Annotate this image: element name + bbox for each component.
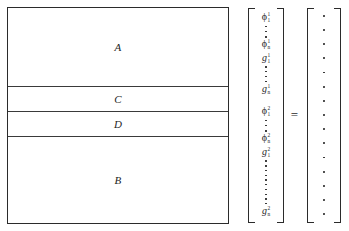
rhs-vector-right-bracket [334,8,341,223]
vector-entry-subscript: n [268,139,271,145]
vector-entry-base: ϕ [262,105,267,116]
rhs-vector-entry-dot [323,72,325,74]
vector-entry-indices: 11 [267,53,270,65]
vector-entry-base: g [262,52,267,63]
rhs-vector-entry-dot [323,86,325,88]
unknown-vector: ϕ11ϕ1ng11g1nϕ21ϕ2ng21g2n [248,8,284,223]
vector-entry-symbol: ϕ1n [262,39,270,51]
matrix-band-c: C [8,86,228,111]
rhs-vector-left-bracket [307,8,314,223]
rhs-vector-entry-dot [323,199,325,201]
unknown-vector-right-bracket [277,8,284,223]
rhs-vector-entry-dot [323,29,325,31]
vector-entry-base: g [262,146,267,157]
rhs-vector-entries [314,8,334,223]
matrix-band-a: A [8,8,228,86]
equation-figure: A C D B ϕ11ϕ1ng11g1nϕ21ϕ2ng21g2n = [0,0,349,231]
vector-entry-subscript: n [267,212,270,218]
rhs-vector-entry-dot [323,128,325,130]
vector-entry-indices: 21 [268,106,271,118]
vector-entry-indices: 1n [267,84,270,96]
rhs-vector [307,8,341,223]
vector-entry-indices: 1n [268,39,271,51]
unknown-vector-entries: ϕ11ϕ1ng11g1nϕ21ϕ2ng21g2n [255,8,277,223]
vertical-ellipsis [255,66,277,82]
rhs-vector-entry-dot [323,142,325,144]
vector-entry-symbol: g2n [262,206,270,218]
matrix-band-a-label: A [114,42,121,53]
vertical-ellipsis [255,160,277,204]
vector-entry-symbol: g21 [262,147,270,159]
vector-entry-subscript: n [267,90,270,96]
rhs-vector-entry-dot [323,213,325,215]
matrix-band-d-label: D [114,119,122,130]
matrix-band-c-label: C [114,94,122,105]
vector-entry-indices: 11 [268,12,271,24]
matrix-band-d: D [8,111,228,136]
rhs-vector-entry-dot [323,100,325,102]
vector-entry-base: ϕ [262,38,267,49]
vector-entry-base: g [262,83,267,94]
vector-entry-indices: 2n [267,206,270,218]
rhs-vector-entry-dot [323,157,325,159]
vector-entry-base: ϕ [262,11,267,22]
rhs-vector-entry-dot [323,15,325,17]
matrix-band-b: B [8,136,228,223]
vector-entry-symbol: ϕ21 [262,106,270,118]
vector-entry-base: g [262,205,267,216]
vector-entry-indices: 2n [268,133,271,145]
rhs-vector-entry-dot [323,43,325,45]
vector-entry-symbol: g11 [262,53,270,65]
vector-entry-indices: 21 [267,147,270,159]
vector-entry-subscript: n [268,45,271,51]
vector-entry-symbol: ϕ11 [262,12,270,24]
vector-entry-subscript: 1 [268,112,271,118]
rhs-vector-entry-dot [323,185,325,187]
matrix-band-b-label: B [114,175,121,186]
equals-sign: = [288,108,301,122]
unknown-vector-left-bracket [248,8,255,223]
vector-entry-subscript: 1 [267,153,270,159]
vector-entry-symbol: g1n [262,84,270,96]
rhs-vector-entry-dot [323,57,325,59]
vertical-ellipsis [255,120,277,132]
vector-entry-symbol: ϕ2n [262,133,270,145]
vertical-ellipsis [255,26,277,38]
rhs-vector-entry-dot [323,114,325,116]
vector-entry-subscript: 1 [268,18,271,24]
vector-entry-base: ϕ [262,132,267,143]
vector-entry-subscript: 1 [267,59,270,65]
rhs-vector-entry-dot [323,171,325,173]
partitioned-coefficient-matrix: A C D B [7,7,229,224]
